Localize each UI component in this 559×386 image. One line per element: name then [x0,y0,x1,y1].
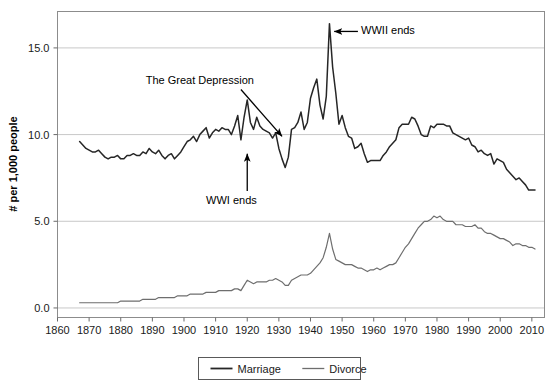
annotation-label-wwi-ends: WWI ends [206,194,257,206]
annotation-label-great-depression: The Great Depression [146,74,254,86]
x-tick-label-13: 1990 [456,324,480,336]
x-tick-label-3: 1890 [140,324,164,336]
chart-legend: MarriageDivorce [199,358,367,380]
x-tick-label-2: 1880 [109,324,133,336]
marriage-divorce-line-chart: 1860187018801890190019101920193019401950… [0,0,559,386]
x-tick-label-11: 1970 [393,324,417,336]
x-tick-label-14: 2000 [488,324,512,336]
x-tick-label-15: 2010 [520,324,544,336]
legend-label-marriage: Marriage [238,363,281,375]
y-axis-title: # per 1,000 people [7,116,19,211]
y-tick-label-3: 15.0 [28,42,49,54]
x-tick-label-9: 1950 [330,324,354,336]
annotation-label-wwii-ends: WWII ends [361,24,415,36]
x-tick-label-10: 1960 [361,324,385,336]
x-tick-label-0: 1860 [45,324,69,336]
x-tick-label-7: 1930 [267,324,291,336]
y-tick-label-0: 0.0 [34,302,49,314]
chart-figure: 1860187018801890190019101920193019401950… [0,0,559,386]
x-tick-label-6: 1920 [235,324,259,336]
x-tick-label-1: 1870 [77,324,101,336]
x-tick-label-8: 1940 [298,324,322,336]
x-tick-label-12: 1980 [425,324,449,336]
y-tick-label-2: 10.0 [28,129,49,141]
legend-label-divorce: Divorce [329,363,366,375]
x-tick-label-5: 1910 [203,324,227,336]
y-tick-label-1: 5.0 [34,215,49,227]
x-tick-label-4: 1900 [172,324,196,336]
